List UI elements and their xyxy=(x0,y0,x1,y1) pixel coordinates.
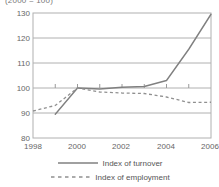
series-line-index-of-turnover xyxy=(55,14,211,114)
legend-swatch-dashed-line-icon xyxy=(49,172,93,182)
legend-swatch-solid-line-icon xyxy=(56,158,100,168)
series-line-index-of-employment xyxy=(33,88,211,111)
legend-label-index-of-employment: Index of employment xyxy=(95,173,169,182)
legend-item-index-of-turnover: Index of turnover xyxy=(0,156,219,170)
plot-frame xyxy=(33,13,211,138)
legend-label-index-of-turnover: Index of turnover xyxy=(102,159,162,168)
legend-item-index-of-employment: Index of employment xyxy=(0,170,219,184)
chart-container: (2000 = 100) 130 120 110 100 90 80 1998 … xyxy=(0,0,219,187)
chart-legend: Index of turnover Index of employment xyxy=(0,156,219,184)
